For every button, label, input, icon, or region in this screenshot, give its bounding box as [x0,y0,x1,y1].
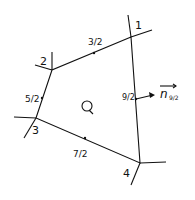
vertex-label-3: 3 [32,124,39,137]
cell-label: Q [0,0,1,1]
grid-line [14,117,36,118]
grid-line [140,162,166,163]
grid-line [128,15,131,37]
vertex-label-2: 2 [40,55,47,68]
cell-center-circle [82,101,92,111]
finite-volume-cell-diagram: 1 2 3 4 3/2 5/2 7/2 9/2 Q n 9/2 [0,0,195,200]
edge-label-7-2: 7/2 [73,149,87,159]
edge-label-5-2: 5/2 [25,94,39,104]
vertex-label-1: 1 [135,19,142,32]
vertex-label-4: 4 [123,167,130,180]
normal-vector-subscript: 9/2 [169,94,179,101]
edge-label-9-2: 9/2 [122,93,135,102]
grid-line [131,163,140,185]
edge-label-3-2: 3/2 [88,37,102,47]
normal-vector-label: n [160,87,168,101]
